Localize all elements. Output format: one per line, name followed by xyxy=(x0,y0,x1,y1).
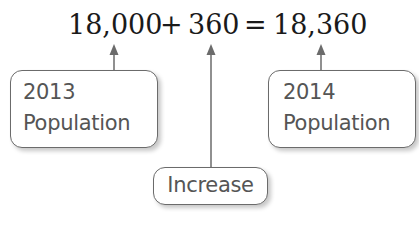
label-box-2014-population: 2014 Population xyxy=(268,70,416,148)
label-year-2014: 2014 xyxy=(283,77,415,108)
label-box-increase: Increase xyxy=(153,167,268,205)
arrow-2014-icon xyxy=(317,44,326,70)
label-population-2014: Population xyxy=(283,108,415,139)
label-year-2013: 2013 xyxy=(23,77,157,108)
arrow-2013-icon xyxy=(110,44,119,70)
label-box-2013-population: 2013 Population xyxy=(10,70,158,148)
label-population-2013: Population xyxy=(23,108,157,139)
arrow-increase-icon xyxy=(207,44,216,167)
